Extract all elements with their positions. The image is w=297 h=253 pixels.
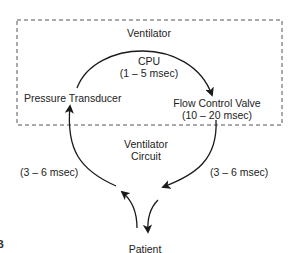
ventilator-circuit-label-line2: Circuit: [131, 150, 161, 162]
flow-control-valve-delay: (10 – 20 msec): [182, 109, 252, 121]
ventilator-circuit-label-line1: Ventilator: [124, 138, 168, 150]
figure-panel-letter: B: [0, 238, 4, 250]
patient-in-arrow: [148, 200, 158, 232]
valve-to-circuit-arrow: [163, 120, 216, 187]
patient-label: Patient: [129, 243, 162, 253]
pressure-transducer-label: Pressure Transducer: [24, 92, 121, 104]
cpu-delay: (1 – 5 msec): [120, 67, 178, 79]
cpu-label: CPU: [138, 55, 160, 67]
right-circuit-delay: (3 – 6 msec): [210, 166, 268, 178]
ventilator-label: Ventilator: [127, 27, 171, 39]
left-circuit-delay: (3 – 6 msec): [20, 166, 78, 178]
patient-out-arrow: [122, 192, 137, 228]
flow-control-valve-label: Flow Control Valve: [173, 97, 260, 109]
